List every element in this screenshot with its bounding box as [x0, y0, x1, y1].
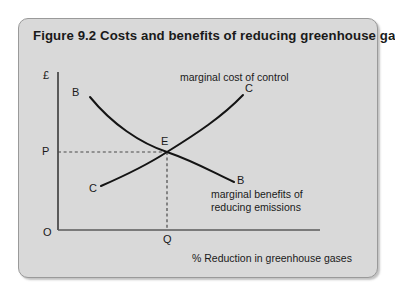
marginal-benefits-annotation-line2: reducing emissions — [211, 201, 303, 214]
y-axis-tick-price: P — [42, 145, 49, 157]
benefits-curve-end-label: B — [237, 174, 244, 186]
marginal-benefits-annotation: marginal benefits of reducing emissions — [211, 188, 303, 214]
cost-curve-start-label: C — [89, 182, 97, 194]
equilibrium-point-label: E — [161, 135, 168, 147]
benefits-curve-start-label: B — [72, 86, 79, 98]
marginal-cost-annotation: marginal cost of control — [180, 71, 289, 84]
x-axis-tick-quantity: Q — [163, 233, 172, 245]
y-axis-label-currency: £ — [43, 69, 49, 81]
x-axis-title: % Reduction in greenhouse gases — [192, 252, 352, 264]
marginal-cost-curve — [101, 95, 243, 186]
axis-origin-label: O — [43, 226, 52, 238]
marginal-benefits-annotation-line1: marginal benefits of — [211, 188, 303, 201]
figure-page: Figure 9.2 Costs and benefits of reducin… — [0, 0, 395, 297]
